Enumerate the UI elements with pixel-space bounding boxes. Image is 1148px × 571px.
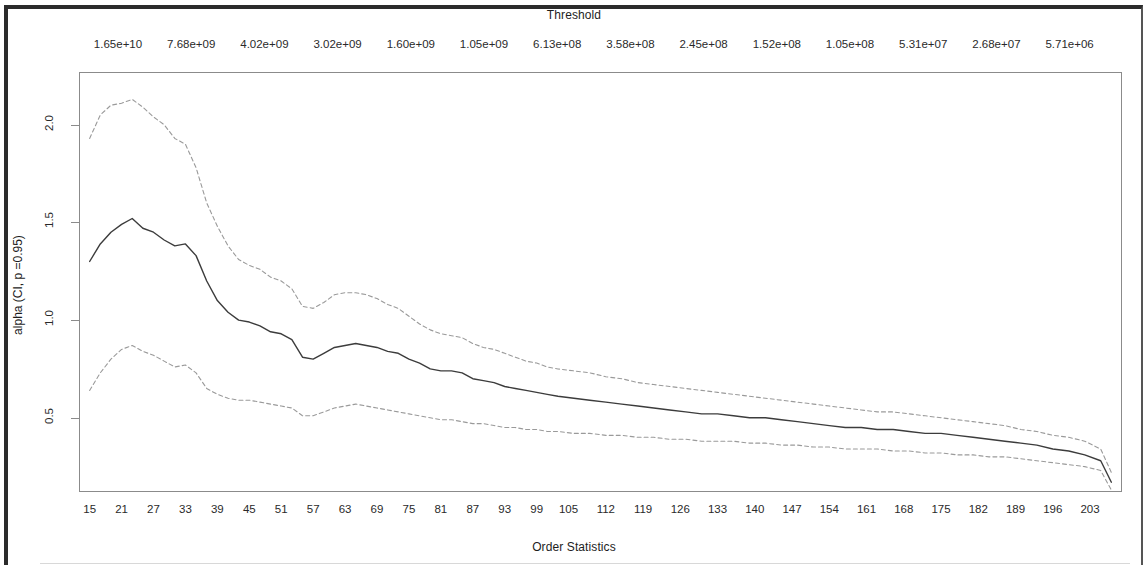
y-axis-title: alpha (CI, p =0.95) xyxy=(11,205,25,365)
x-axis-tick-label: 21 xyxy=(115,503,128,515)
y-axis-tick-label: 0.5 xyxy=(43,403,55,429)
series-line xyxy=(90,99,1112,472)
x-axis-tick-label: 75 xyxy=(403,503,416,515)
y-axis-tick-label: 1.5 xyxy=(43,207,55,233)
x-axis-tick-label: 112 xyxy=(597,503,615,515)
y-axis-tick-mark xyxy=(71,125,79,126)
plot-canvas xyxy=(79,72,1122,492)
x-axis-tick-label: 126 xyxy=(671,503,690,515)
x-axis-tick-label: 189 xyxy=(1006,503,1025,515)
x-axis-tick-label: 119 xyxy=(634,503,652,515)
series-line xyxy=(90,345,1112,490)
top-axis-tick-label: 2.68e+07 xyxy=(972,38,1020,50)
top-axis-tick-label: 5.31e+07 xyxy=(899,38,947,50)
y-axis-tick-label: 1.0 xyxy=(43,305,55,331)
x-axis-tick-label: 182 xyxy=(969,503,988,515)
y-axis-tick-mark xyxy=(71,418,79,419)
x-axis-tick-label: 168 xyxy=(894,503,913,515)
x-axis-tick-label: 69 xyxy=(371,503,384,515)
x-axis-tick-label: 39 xyxy=(211,503,224,515)
y-axis-tick-mark xyxy=(71,222,79,223)
x-axis-tick-label: 33 xyxy=(179,503,192,515)
x-axis-tick-label: 57 xyxy=(307,503,320,515)
x-axis-tick-label: 45 xyxy=(243,503,256,515)
y-axis-tick-mark xyxy=(71,320,79,321)
top-axis-tick-label: 1.65e+10 xyxy=(94,38,142,50)
x-axis-tick-label: 27 xyxy=(147,503,160,515)
bottom-axis-title: Order Statistics xyxy=(0,540,1148,554)
top-axis-title: Threshold xyxy=(0,8,1148,22)
top-axis-tick-label: 4.02e+09 xyxy=(240,38,288,50)
top-axis-tick-label: 3.02e+09 xyxy=(313,38,361,50)
series-line xyxy=(90,219,1112,483)
x-axis-tick-label: 15 xyxy=(83,503,96,515)
x-axis-tick-label: 161 xyxy=(857,503,876,515)
series-layer xyxy=(90,99,1112,490)
x-axis-tick-label: 175 xyxy=(931,503,950,515)
top-axis-tick-label: 1.05e+08 xyxy=(826,38,874,50)
x-axis-tick-label: 196 xyxy=(1043,503,1062,515)
x-axis-tick-label: 87 xyxy=(466,503,479,515)
top-axis-tick-label: 6.13e+08 xyxy=(533,38,581,50)
x-axis-tick-label: 105 xyxy=(559,503,578,515)
top-axis-tick-label: 7.68e+09 xyxy=(167,38,215,50)
x-axis-tick-label: 93 xyxy=(498,503,511,515)
x-axis-tick-label: 99 xyxy=(530,503,543,515)
x-axis-tick-label: 133 xyxy=(708,503,727,515)
top-axis-tick-label: 1.05e+09 xyxy=(460,38,508,50)
top-axis-tick-label: 3.58e+08 xyxy=(606,38,654,50)
hill-plot-figure: Threshold Order Statistics alpha (CI, p … xyxy=(0,0,1148,571)
top-axis-tick-label: 1.52e+08 xyxy=(753,38,801,50)
top-axis-tick-label: 2.45e+08 xyxy=(679,38,727,50)
x-axis-tick-label: 51 xyxy=(275,503,288,515)
top-axis-tick-label: 5.71e+06 xyxy=(1045,38,1093,50)
y-axis-tick-label: 2.0 xyxy=(43,110,55,136)
x-axis-tick-label: 81 xyxy=(434,503,447,515)
x-axis-tick-label: 147 xyxy=(782,503,801,515)
screenshot-page: Threshold Order Statistics alpha (CI, p … xyxy=(0,0,1148,571)
x-axis-tick-label: 140 xyxy=(745,503,764,515)
x-axis-tick-label: 63 xyxy=(339,503,352,515)
x-axis-tick-label: 203 xyxy=(1080,503,1099,515)
x-axis-tick-label: 154 xyxy=(820,503,839,515)
top-axis-tick-label: 1.60e+09 xyxy=(387,38,435,50)
